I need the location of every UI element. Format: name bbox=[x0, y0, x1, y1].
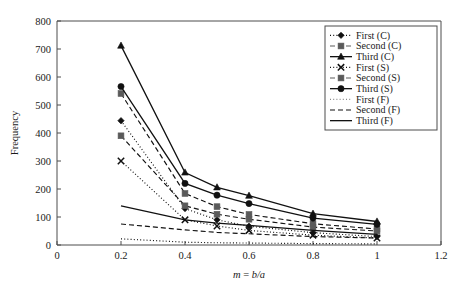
data-point-marker-square bbox=[338, 43, 344, 49]
frequency-vs-aspect-ratio-chart: 010020030040050060070080000.20.40.60.811… bbox=[0, 0, 450, 295]
y-tick-label: 100 bbox=[35, 212, 51, 223]
data-point-marker-square bbox=[118, 91, 124, 97]
y-tick-label: 600 bbox=[35, 72, 51, 83]
legend: First (C)Second (C)Third (C)First (S)Sec… bbox=[325, 26, 437, 130]
figure-container: 010020030040050060070080000.20.40.60.811… bbox=[0, 0, 450, 295]
y-axis-title: Frequency bbox=[9, 110, 20, 155]
data-point-marker-square bbox=[118, 133, 124, 139]
y-tick-label: 0 bbox=[46, 240, 51, 251]
data-point-marker-circle bbox=[338, 86, 344, 92]
y-tick-label: 500 bbox=[35, 100, 51, 111]
y-tick-label: 700 bbox=[35, 44, 51, 55]
x-tick-label: 1 bbox=[374, 250, 379, 261]
data-point-marker-triangle bbox=[182, 169, 189, 175]
data-point-marker-circle bbox=[214, 192, 220, 198]
data-point-marker-square bbox=[182, 203, 188, 209]
x-tick-label: 0.6 bbox=[242, 250, 255, 261]
x-tick-label: 0 bbox=[54, 250, 59, 261]
data-point-marker-cross bbox=[118, 158, 124, 164]
data-point-marker-triangle bbox=[118, 42, 125, 48]
data-point-marker-square bbox=[310, 224, 316, 230]
data-point-marker-diamond bbox=[118, 117, 124, 123]
legend-label: Third (F) bbox=[356, 115, 393, 127]
x-axis-title: m = b/a bbox=[233, 269, 265, 280]
data-point-marker-square bbox=[338, 75, 344, 81]
data-point-marker-circle bbox=[182, 180, 188, 186]
data-point-marker-circle bbox=[118, 83, 124, 89]
data-point-marker-square bbox=[214, 204, 220, 210]
x-tick-label: 0.8 bbox=[306, 250, 319, 261]
y-tick-label: 400 bbox=[35, 128, 51, 139]
data-point-marker-square bbox=[374, 228, 380, 234]
data-point-marker-square bbox=[182, 191, 188, 197]
y-tick-label: 300 bbox=[35, 156, 51, 167]
x-axis-title-expression: b/a bbox=[252, 269, 265, 280]
data-point-marker-circle bbox=[310, 215, 316, 221]
y-tick-label: 200 bbox=[35, 184, 51, 195]
series-second-s bbox=[118, 133, 380, 234]
data-point-marker-square bbox=[214, 211, 220, 217]
x-tick-label: 1.2 bbox=[434, 250, 447, 261]
data-point-marker-circle bbox=[374, 221, 380, 227]
data-point-marker-square bbox=[246, 216, 252, 222]
y-tick-label: 800 bbox=[35, 16, 51, 27]
data-point-marker-circle bbox=[246, 200, 252, 206]
data-point-marker-diamond bbox=[214, 217, 220, 223]
x-tick-label: 0.4 bbox=[178, 250, 192, 261]
x-tick-label: 0.2 bbox=[114, 250, 127, 261]
x-axis-title-equals: = bbox=[241, 269, 252, 280]
